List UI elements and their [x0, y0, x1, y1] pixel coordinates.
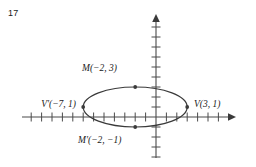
point-m	[133, 85, 137, 89]
label-point-v-prime: V′(−7, 1)	[41, 99, 76, 110]
ellipse-figure: 17	[0, 0, 256, 167]
point-m-prime	[133, 125, 137, 129]
point-v	[185, 105, 189, 109]
label-point-m-prime: M′(−2, −1)	[77, 135, 121, 146]
x-axis-arrow-icon	[228, 113, 236, 121]
point-v-prime	[81, 105, 85, 109]
y-axis-arrow-icon	[152, 14, 160, 22]
label-point-m: M(−2, 3)	[81, 63, 117, 74]
label-point-v: V(3, 1)	[194, 99, 220, 110]
coordinate-plane: M(−2, 3) M′(−2, −1) V′(−7, 1) V(3, 1)	[0, 0, 256, 167]
